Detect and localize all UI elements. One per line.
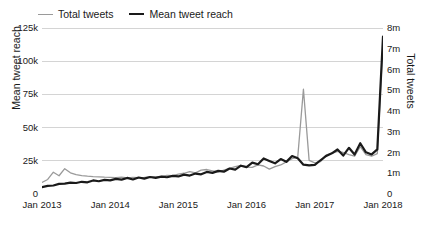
- y-axis-right-tick-label: 0: [387, 189, 392, 199]
- x-axis-tick-label: Jan 2018: [353, 200, 413, 210]
- x-axis-tick-label: Jan 2017: [285, 200, 345, 210]
- chart-legend: Total tweets Mean tweet reach: [38, 6, 233, 22]
- y-axis-left-tick-label: 100k: [4, 56, 38, 66]
- y-axis-right-tick-label: 3m: [387, 127, 400, 137]
- y-axis-left-tick-label: 25k: [4, 156, 38, 166]
- y-axis-right-tick-label: 5m: [387, 85, 400, 95]
- chart-svg: [42, 28, 383, 194]
- y-axis-right-tick-label: 6m: [387, 65, 400, 75]
- legend-item-total-tweets: Total tweets: [38, 8, 113, 20]
- y-axis-right-tick-label: 4m: [387, 106, 400, 116]
- x-axis-tick-label: Jan 2016: [217, 200, 277, 210]
- x-axis-tick-label: Jan 2013: [12, 200, 72, 210]
- gridlines: [42, 28, 383, 194]
- x-axis-tick-label: Jan 2014: [80, 200, 140, 210]
- legend-item-mean-tweet-reach: Mean tweet reach: [129, 8, 232, 20]
- y-axis-right-tick-label: 7m: [387, 44, 400, 54]
- legend-swatch-total-tweets: [38, 14, 53, 15]
- y-axis-left-tick-label: 75k: [4, 89, 38, 99]
- y-axis-left-tick-label: 50k: [4, 123, 38, 133]
- legend-swatch-mean-tweet-reach: [129, 13, 144, 15]
- legend-label-mean-tweet-reach: Mean tweet reach: [149, 8, 232, 20]
- y-axis-left-tick-label: 125k: [4, 23, 38, 33]
- y-axis-right-title: Total tweets: [405, 21, 417, 141]
- chart-figure: Total tweets Mean tweet reach Mean tweet…: [0, 0, 425, 236]
- y-axis-right-tick-label: 8m: [387, 23, 400, 33]
- plot-area: [42, 28, 383, 194]
- y-axis-right-tick-label: 2m: [387, 148, 400, 158]
- series-line-mean-tweet-reach: [42, 37, 383, 188]
- series-line-total-tweets: [42, 42, 383, 182]
- legend-label-total-tweets: Total tweets: [58, 8, 113, 20]
- y-axis-right-tick-label: 1m: [387, 168, 400, 178]
- series-lines: [42, 37, 383, 188]
- y-axis-left-tick-label: 0: [4, 189, 38, 199]
- x-axis-tick-label: Jan 2015: [148, 200, 208, 210]
